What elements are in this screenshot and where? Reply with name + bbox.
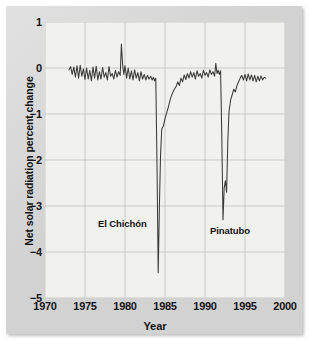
annotation-pinatubo: Pinatubo [210, 225, 250, 236]
grid-lines [45, 22, 285, 298]
y-tick-label: 1 [18, 17, 42, 28]
x-axis-label: Year [0, 320, 310, 332]
x-tick-label: 1995 [225, 301, 265, 312]
data-line [69, 44, 266, 273]
x-tick-label: 1975 [65, 301, 105, 312]
x-tick-label: 2000 [265, 301, 305, 312]
plot-svg [45, 22, 285, 298]
annotation-el-chichon: El Chichón [98, 218, 147, 229]
x-tick-label: 1970 [25, 301, 65, 312]
x-tick-label: 1990 [185, 301, 225, 312]
data-series-group [69, 44, 266, 273]
x-tick-label: 1980 [105, 301, 145, 312]
x-tick-label: 1985 [145, 301, 185, 312]
y-axis-label: Net solar radiation percent change [23, 36, 35, 286]
chart-figure: 1 0 −1 −2 −3 −4 −5 1970 1975 1980 1985 1… [0, 0, 310, 344]
plot-area [45, 22, 285, 298]
